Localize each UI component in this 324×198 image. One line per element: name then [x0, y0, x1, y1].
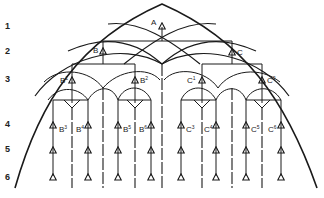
triangle-icon — [115, 174, 121, 180]
label-C1: C1 — [187, 75, 196, 85]
label-C5: C5 — [251, 124, 260, 134]
label-C3: C3 — [186, 124, 195, 134]
label-B4: B4 — [76, 124, 84, 134]
triangle-icon — [148, 174, 154, 180]
label-A: A — [151, 18, 157, 27]
label-C: C — [237, 48, 243, 57]
dashed-ribs — [72, 64, 262, 188]
node-A: A — [103, 18, 232, 41]
triangle-icon — [243, 174, 249, 180]
node-C: C — [202, 41, 262, 64]
column-lines — [53, 100, 281, 176]
level3-nodes — [53, 64, 281, 108]
label-B: B — [93, 46, 98, 55]
vault-diagram: A B C B1 B2 C1 C2 — [0, 0, 324, 198]
triangle-icon — [85, 174, 91, 180]
label-B3: B3 — [59, 124, 67, 134]
column-triangles — [50, 122, 284, 180]
triangle-icon — [50, 174, 56, 180]
label-B2: B2 — [140, 75, 148, 85]
label-C6: C6 — [268, 124, 277, 134]
outer-arch — [15, 4, 317, 188]
label-B6: B6 — [139, 124, 147, 134]
label-C4: C4 — [204, 124, 213, 134]
triangle-icon — [278, 174, 284, 180]
label-B5: B5 — [123, 124, 131, 134]
label-B1: B1 — [60, 75, 68, 85]
triangle-icon — [213, 174, 219, 180]
triangle-icon — [178, 174, 184, 180]
label-C2: C2 — [267, 75, 276, 85]
